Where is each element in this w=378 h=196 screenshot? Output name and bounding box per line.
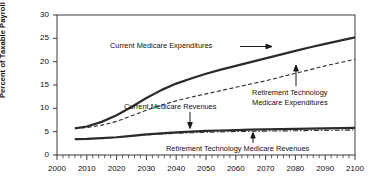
annotation-line: Current Medicare Revenues [124, 102, 216, 111]
y-tick-label: 20 [31, 57, 49, 66]
y-tick-label: 15 [31, 80, 49, 89]
y-tick-label: 30 [31, 10, 49, 19]
y-axis-title: Percent of Taxable Payroll [0, 2, 7, 98]
y-tick-label: 5 [31, 127, 49, 136]
x-tick-label: 2090 [310, 164, 340, 173]
x-tick-label: 2000 [42, 164, 72, 173]
x-tick-label: 2040 [161, 164, 191, 173]
annotation-current-medicare-expenditures: Current Medicare Expenditures [110, 41, 212, 51]
plot-frame [57, 15, 355, 155]
x-tick-label: 2050 [191, 164, 221, 173]
x-tick-label: 2100 [340, 164, 370, 173]
x-tick-label: 2030 [131, 164, 161, 173]
x-tick-label: 2080 [280, 164, 310, 173]
y-tick-label: 0 [31, 150, 49, 159]
annotation-retirement-technology-medicare-revenues: Retirement Technology Medicare Revenues [166, 144, 309, 154]
y-axis-ticks [53, 15, 57, 155]
x-axis-ticks [57, 155, 355, 160]
annotation-line: Retirement Technology [252, 88, 328, 98]
annotation-current-medicare-revenues: Current Medicare Revenues [124, 102, 216, 112]
x-tick-label: 2020 [102, 164, 132, 173]
y-tick-label: 10 [31, 103, 49, 112]
x-tick-label: 2060 [221, 164, 251, 173]
annotation-line: Medicare Expenditures [252, 98, 328, 108]
x-tick-label: 2010 [72, 164, 102, 173]
annotation-line: Retirement Technology Medicare Revenues [166, 144, 309, 153]
y-tick-label: 25 [31, 33, 49, 42]
annotation-retirement-technology-medicare-expenditures: Retirement Technology Medicare Expenditu… [252, 88, 328, 108]
annotation-line: Current Medicare Expenditures [110, 41, 212, 50]
x-tick-label: 2070 [251, 164, 281, 173]
